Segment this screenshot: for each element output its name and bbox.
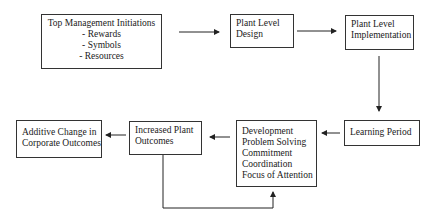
- node-line: Corporate Outcomes: [22, 138, 96, 149]
- node-title: Top Management Initiations: [47, 18, 156, 29]
- node-line: Plant Level: [236, 18, 288, 29]
- node-learning-period: Learning Period: [344, 120, 420, 146]
- node-item-rewards: - Rewards: [47, 29, 156, 40]
- node-line: Plant Level: [351, 19, 408, 30]
- node-line: Development: [242, 126, 311, 137]
- node-line: Focus of Attention: [242, 170, 311, 181]
- node-top-management-initiations: Top Management Initiations - Rewards - S…: [41, 14, 162, 69]
- node-line: Outcomes: [135, 136, 196, 147]
- node-line: Additive Change in: [22, 127, 96, 138]
- node-line: Design: [236, 29, 288, 40]
- node-plant-level-implementation: Plant Level Implementation: [345, 15, 414, 50]
- node-increased-plant-outcomes: Increased Plant Outcomes: [129, 121, 202, 155]
- node-line: Increased Plant: [135, 125, 196, 136]
- node-development: Development Problem Solving Commitment C…: [236, 120, 317, 187]
- node-item-symbols: - Symbols: [47, 40, 156, 51]
- node-item-resources: - Resources: [47, 51, 156, 62]
- node-line: Implementation: [351, 30, 408, 41]
- node-line: Coordination: [242, 159, 311, 170]
- node-line: Commitment: [242, 148, 311, 159]
- node-line: Problem Solving: [242, 137, 311, 148]
- node-additive-change: Additive Change in Corporate Outcomes: [16, 120, 102, 158]
- node-line: Learning Period: [350, 127, 414, 138]
- node-plant-level-design: Plant Level Design: [230, 14, 294, 48]
